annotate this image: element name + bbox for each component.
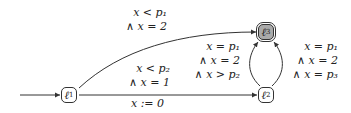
guard-l2-l3-right: x = p₁ ∧ x = 2 ∧ x = p₃ [288,40,338,82]
state-l3-final: ℓ3 [258,24,274,40]
guard-l1-l3: x < p₁ ∧ x = 2 [115,6,167,34]
edge-l2-l3-left [250,42,260,86]
guard-line: x = p₁ [288,40,338,54]
guard-line: ∧ x > p₂ [190,68,240,82]
guard-line: x < p₂ [120,62,170,76]
guard-line: ∧ x = 2 [288,54,338,68]
state-l1: ℓ1 [61,87,77,103]
guard-line: x = p₁ [190,40,240,54]
guard-l1-l2: x < p₂ ∧ x = 1 [120,62,170,90]
state-l2: ℓ2 [258,87,274,103]
guard-line: ∧ x = p₃ [288,68,338,82]
guard-line: ∧ x = 2 [190,54,240,68]
guard-line: ∧ x = 1 [120,76,170,90]
reset-l1-l2: x := 0 [125,97,170,111]
guard-l2-l3-left: x = p₁ ∧ x = 2 ∧ x > p₂ [190,40,240,82]
guard-line: ∧ x = 2 [115,20,167,34]
edge-l2-l3-right [272,42,282,86]
guard-line: x < p₁ [115,6,167,20]
